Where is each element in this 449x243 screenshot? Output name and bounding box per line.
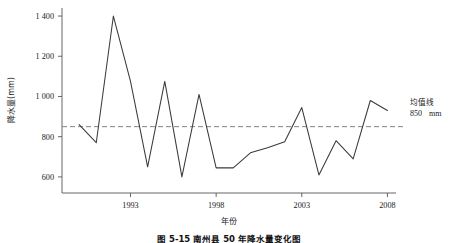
mean-line-unit: mm [429, 109, 442, 118]
y-tick-label: 1 200 [36, 52, 54, 61]
y-axis-title: 降水量(mm) [6, 77, 16, 123]
x-tick-label: 1998 [208, 201, 224, 210]
y-tick-label: 600 [42, 173, 54, 182]
x-tick-label: 2003 [294, 201, 310, 210]
precipitation-series-line [79, 16, 387, 177]
y-tick-label: 800 [42, 133, 54, 142]
chart-canvas: 6008001 0001 2001 400 1993199820032008 降… [0, 0, 449, 243]
mean-line-label: 均值线 [410, 97, 434, 107]
x-tick-label: 2008 [379, 201, 395, 210]
precipitation-line-chart: 6008001 0001 2001 400 1993199820032008 降… [0, 0, 449, 243]
y-axis-ticks: 6008001 0001 2001 400 [36, 12, 62, 182]
x-axis-title: 年份 [221, 216, 237, 226]
mean-line-value: 850 [410, 109, 422, 118]
x-tick-label: 1993 [122, 201, 138, 210]
x-axis-ticks: 1993199820032008 [122, 193, 395, 210]
figure-caption: 图 5-15 南州县 50 年降水量变化图 [157, 234, 301, 243]
y-tick-label: 1 000 [36, 92, 54, 101]
y-tick-label: 1 400 [36, 12, 54, 21]
